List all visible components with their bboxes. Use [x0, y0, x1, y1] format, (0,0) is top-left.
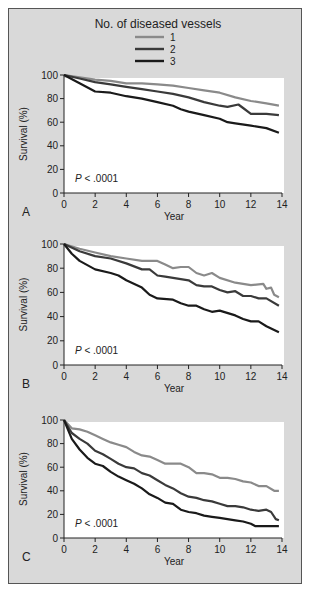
x-tick-label: 10 [214, 199, 226, 210]
p-value-annotation: P < .0001 [75, 173, 119, 184]
legend: 123 [135, 32, 176, 67]
x-axis-label: Year [164, 383, 185, 394]
legend-label-2: 2 [170, 44, 176, 55]
y-tick-label: 20 [47, 509, 59, 520]
x-tick-label: 4 [124, 371, 130, 382]
y-tick-label: 40 [47, 485, 59, 496]
x-tick-label: 12 [245, 371, 257, 382]
x-tick-label: 2 [92, 371, 98, 382]
x-axis-label: Year [164, 556, 185, 567]
x-tick-label: 6 [155, 371, 161, 382]
x-tick-label: 6 [155, 544, 161, 555]
x-tick-label: 8 [186, 544, 192, 555]
panel-label: B [22, 377, 30, 391]
y-tick-label: 0 [52, 188, 58, 199]
x-axis-label: Year [164, 211, 185, 222]
x-tick-label: 14 [276, 199, 288, 210]
y-tick-label: 20 [47, 335, 59, 346]
x-tick-label: 4 [124, 199, 130, 210]
panel-B: 02040608010002468101214YearSurvival (%)B… [18, 239, 288, 395]
panel-label: A [22, 205, 30, 219]
x-tick-label: 6 [155, 199, 161, 210]
y-axis-label: Survival (%) [18, 452, 29, 506]
panel-label: C [22, 550, 31, 564]
y-axis-label: Survival (%) [18, 107, 29, 161]
survival-figure: No. of diseased vessels 123 020406080100… [0, 0, 311, 592]
x-tick-label: 4 [124, 544, 130, 555]
x-tick-label: 8 [186, 199, 192, 210]
x-tick-label: 14 [276, 371, 288, 382]
x-tick-label: 12 [245, 199, 257, 210]
y-tick-label: 80 [47, 438, 59, 449]
x-tick-label: 2 [92, 544, 98, 555]
p-value-annotation: P < .0001 [75, 345, 119, 356]
p-value-annotation: P < .0001 [75, 518, 119, 529]
y-tick-label: 60 [47, 287, 59, 298]
x-tick-label: 0 [61, 544, 67, 555]
y-tick-label: 80 [47, 93, 59, 104]
x-tick-label: 10 [214, 371, 226, 382]
panel-A: 02040608010002468101214YearSurvival (%)A… [18, 70, 288, 223]
y-tick-label: 40 [47, 311, 59, 322]
y-tick-label: 0 [52, 360, 58, 371]
y-tick-label: 80 [47, 263, 59, 274]
legend-label-3: 3 [170, 56, 176, 67]
x-tick-label: 0 [61, 199, 67, 210]
y-tick-label: 20 [47, 164, 59, 175]
y-tick-label: 40 [47, 140, 59, 151]
x-tick-label: 0 [61, 371, 67, 382]
y-tick-label: 60 [47, 117, 59, 128]
y-tick-label: 100 [41, 415, 58, 426]
x-tick-label: 10 [214, 544, 226, 555]
y-tick-label: 0 [52, 533, 58, 544]
x-tick-label: 12 [245, 544, 257, 555]
legend-label-1: 1 [170, 32, 176, 43]
y-tick-label: 100 [41, 70, 58, 81]
x-tick-label: 8 [186, 371, 192, 382]
x-tick-label: 14 [276, 544, 288, 555]
legend-title: No. of diseased vessels [95, 17, 222, 31]
y-axis-label: Survival (%) [18, 278, 29, 332]
y-tick-label: 60 [47, 462, 59, 473]
x-tick-label: 2 [92, 199, 98, 210]
panel-C: 02040608010002468101214YearSurvival (%)C… [18, 415, 288, 568]
y-tick-label: 100 [41, 239, 58, 250]
